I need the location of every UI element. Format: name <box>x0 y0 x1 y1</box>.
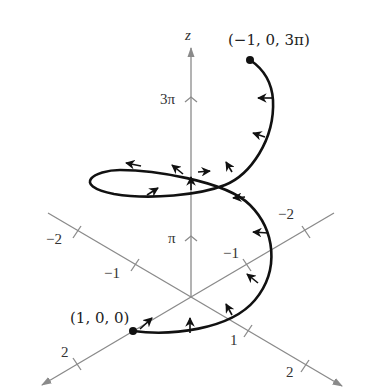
y-tick-label-neg2: −2 <box>46 231 62 247</box>
start-point <box>129 327 137 335</box>
axis-labels: z π 3π 2 −1 −2 1 2 −1 −2 <box>46 27 294 380</box>
y-tick-label-1: 1 <box>230 332 238 348</box>
z-tick-label-pi: π <box>168 230 176 246</box>
y-tick-label-2: 2 <box>286 364 294 380</box>
x-tick-label-2: 2 <box>61 344 69 360</box>
y-tick-label-neg1: −1 <box>104 265 120 281</box>
helix-diagram: z π 3π 2 −1 −2 1 2 −1 −2 (1, 0, 0) (−1, … <box>0 0 381 388</box>
tangent-arrow-icon <box>198 171 210 172</box>
tangent-arrow-icon <box>253 232 268 233</box>
z-tick-label-3pi: 3π <box>160 91 176 107</box>
x-axis-negative <box>191 213 334 297</box>
tangent-arrow-icon <box>226 304 232 315</box>
y-tick-1 <box>244 325 252 337</box>
start-point-label: (1, 0, 0) <box>70 309 129 327</box>
tangent-arrow-icon <box>140 318 152 329</box>
x-tick-label-neg2: −2 <box>278 206 294 222</box>
tangent-arrow-icon <box>253 133 265 137</box>
tangent-arrow-icon <box>147 188 158 195</box>
tangent-arrow-icon <box>172 165 183 174</box>
tangent-arrow-icon <box>226 162 232 172</box>
end-point <box>246 56 254 64</box>
tangent-arrows <box>126 98 272 333</box>
x-tick-2 <box>73 358 81 370</box>
tangent-arrow-icon <box>233 197 245 198</box>
y-axis-negative <box>48 213 191 297</box>
helix-curve <box>90 56 273 335</box>
end-point-label: (−1, 0, 3π) <box>228 31 310 49</box>
y-axis-positive <box>191 297 342 386</box>
z-axis-label: z <box>184 27 191 43</box>
tangent-arrow-icon <box>126 163 141 166</box>
x-tick-label-neg1: −1 <box>223 245 239 261</box>
tangent-arrow-icon <box>247 274 258 283</box>
axes <box>42 48 342 386</box>
